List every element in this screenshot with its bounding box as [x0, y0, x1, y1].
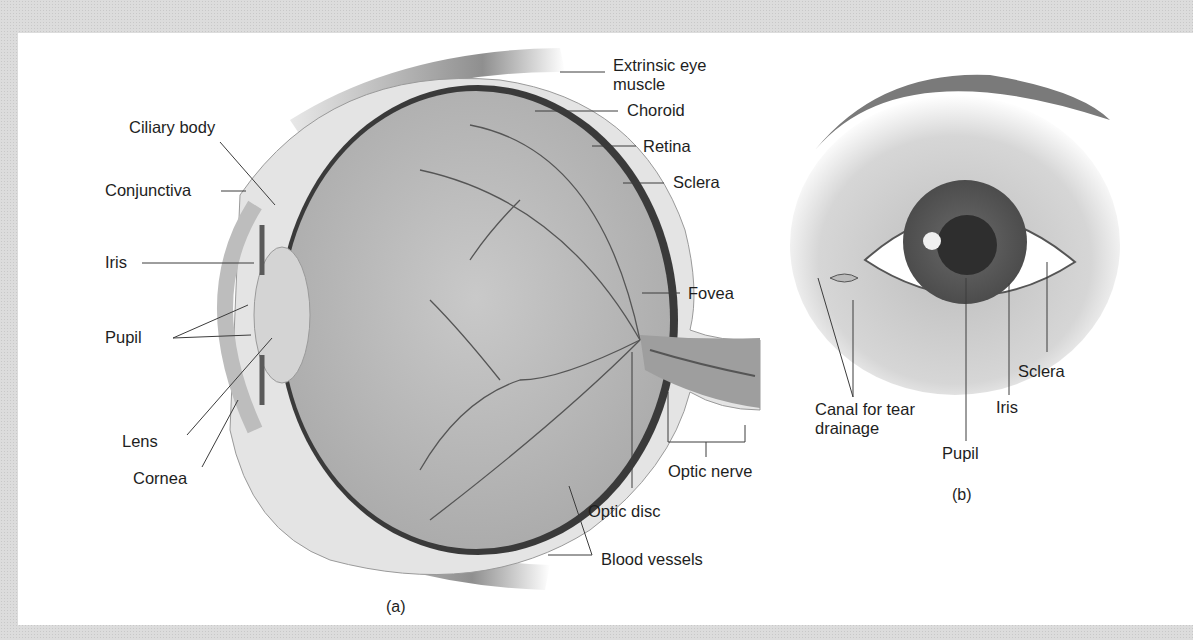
label-iris-b: Iris: [996, 398, 1018, 417]
caption-a: (a): [386, 597, 406, 616]
label-optic-disc: Optic disc: [588, 502, 660, 521]
label-conjunctiva: Conjunctiva: [105, 181, 191, 200]
label-choroid: Choroid: [627, 101, 685, 120]
label-pupil-a: Pupil: [105, 328, 142, 347]
eye-illustration: [0, 0, 1193, 640]
label-line: muscle: [613, 75, 707, 94]
light-reflection: [923, 232, 941, 250]
label-sclera-a: Sclera: [673, 173, 720, 192]
label-ciliary-body: Ciliary body: [129, 118, 215, 137]
label-optic-nerve: Optic nerve: [668, 462, 752, 481]
vitreous-body: [282, 91, 670, 549]
pupil-disc: [937, 215, 997, 275]
label-blood-vessels: Blood vessels: [601, 550, 703, 569]
label-line: drainage: [815, 419, 915, 438]
label-extrinsic-eye-muscle: Extrinsic eye muscle: [613, 56, 707, 94]
label-line: Extrinsic eye: [613, 56, 707, 75]
label-retina: Retina: [643, 137, 691, 156]
label-line: Canal for tear: [815, 400, 915, 419]
label-fovea: Fovea: [688, 284, 734, 303]
label-pupil-b: Pupil: [942, 444, 979, 463]
eye-cross-section: [225, 48, 760, 590]
label-iris-a: Iris: [105, 253, 127, 272]
label-canal-for-tear-drainage: Canal for tear drainage: [815, 400, 915, 438]
label-lens: Lens: [122, 432, 158, 451]
label-sclera-b: Sclera: [1018, 362, 1065, 381]
eye-front-view: [790, 75, 1120, 395]
label-cornea: Cornea: [133, 469, 187, 488]
caption-b: (b): [952, 485, 972, 504]
